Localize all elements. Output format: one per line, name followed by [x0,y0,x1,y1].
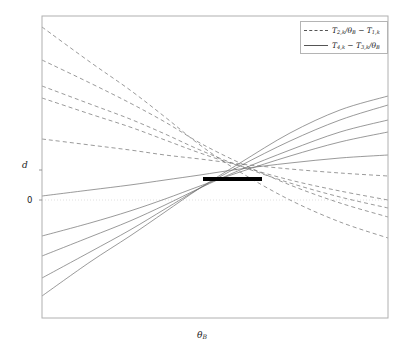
legend-label-dashed: T2,k/θB − T1,k [332,26,380,35]
y-axis-label-d: d [22,160,28,170]
x-axis-label-sub: B [202,333,207,340]
legend-swatch-solid-icon [304,45,328,46]
legend-label-solid: T4,k − T3,k/θB [332,41,380,50]
y-axis-tick-zero: 0 [27,195,32,205]
legend-swatch-dashed-icon [304,30,328,31]
legend-entry-dashed: T2,k/θB − T1,k [304,23,380,38]
legend-entry-solid: T4,k − T3,k/θB [304,38,380,53]
x-axis-label: θB [197,330,207,340]
legend: T2,k/θB − T1,k T4,k − T3,k/θB [300,21,388,54]
